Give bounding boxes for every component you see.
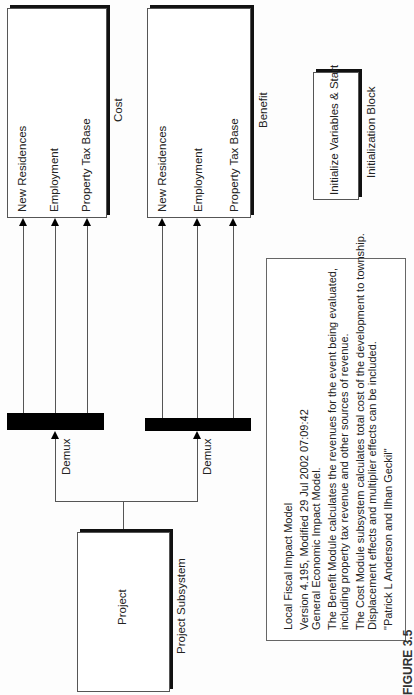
cost-input-property-tax-base: Property Tax Base xyxy=(81,118,93,212)
signal-line xyxy=(55,439,56,501)
arrow-icon xyxy=(51,218,59,226)
description-line: Displacement effects and multiplier effe… xyxy=(367,341,378,630)
init-block-text: Initialize Variables & Start xyxy=(329,65,341,195)
signal-line xyxy=(162,226,163,418)
signal-line xyxy=(197,439,198,501)
cost-block-label: Cost xyxy=(113,98,125,122)
arrow-icon xyxy=(51,431,59,439)
project-block-text: Project xyxy=(117,589,129,625)
demux-label-1: Demux xyxy=(61,439,73,475)
arrow-icon xyxy=(193,218,201,226)
description-line: including property tax revenue and other… xyxy=(339,333,350,630)
demux-label-2: Demux xyxy=(202,439,214,475)
cost-input-new-residences: New Residences xyxy=(17,126,29,212)
description-line: "Patrick L Anderson and Ilhan Geckil" xyxy=(383,448,394,630)
description-line: The Benefit Module calculates the revenu… xyxy=(327,268,338,630)
arrow-icon xyxy=(19,218,27,226)
arrow-icon xyxy=(158,218,166,226)
signal-line xyxy=(55,226,56,413)
arrow-icon xyxy=(193,431,201,439)
init-block-label: Initialization Block xyxy=(366,87,378,178)
description-line: The Cost Module subsystem calculates tot… xyxy=(355,233,366,630)
benefit-input-property-tax-base: Property Tax Base xyxy=(229,118,241,212)
project-block-label: Project Subsystem xyxy=(176,558,188,654)
demux-block-2[interactable] xyxy=(145,418,251,431)
benefit-block-label: Benefit xyxy=(258,92,270,128)
demux-block-1[interactable] xyxy=(7,413,104,430)
signal-line xyxy=(23,226,24,413)
arrow-icon xyxy=(83,218,91,226)
signal-line xyxy=(55,501,198,502)
signal-line xyxy=(123,501,124,531)
signal-line xyxy=(233,226,234,418)
description-line: General Economic Impact Model. xyxy=(311,467,322,630)
signal-line xyxy=(87,226,88,413)
benefit-input-new-residences: New Residences xyxy=(157,126,169,212)
cost-input-employment: Employment xyxy=(49,148,61,212)
figure-caption: FIGURE 3.5 xyxy=(402,630,414,695)
description-line: Local Fiscal Impact Model xyxy=(283,503,294,630)
arrow-icon xyxy=(229,218,237,226)
description-line: Version 4.195, Modified 29 Jul 2002 07:0… xyxy=(299,409,310,630)
benefit-input-employment: Employment xyxy=(193,148,205,212)
signal-line xyxy=(197,226,198,418)
